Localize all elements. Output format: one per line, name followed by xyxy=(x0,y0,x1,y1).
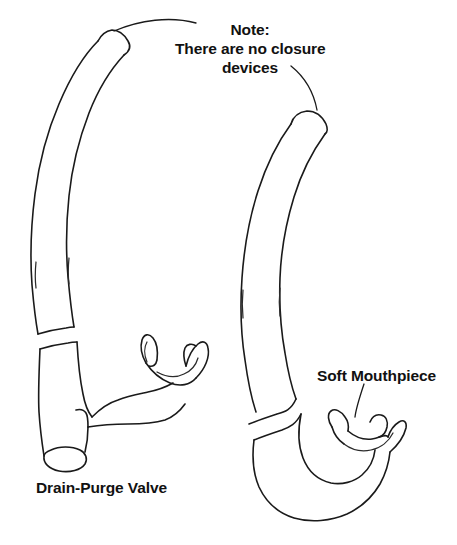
left-barrel-bottom-right-edge xyxy=(85,427,88,452)
left-tube-seam-2 xyxy=(68,258,69,284)
soft-mouthpiece-leader xyxy=(355,384,364,417)
diagram-artwork xyxy=(0,0,457,545)
right-band-bottom xyxy=(254,414,301,440)
right-tube-seam-2 xyxy=(279,288,280,316)
snorkel-diagram: Note: There are no closure devices Drain… xyxy=(0,0,457,545)
left-shoulder-step xyxy=(76,410,88,427)
right-mouthpiece-left-base xyxy=(332,427,344,444)
note-callout-text: Note: There are no closure devices xyxy=(175,20,325,77)
left-band-top xyxy=(38,327,74,334)
right-tube-tip xyxy=(291,111,327,134)
drain-purge-valve-opening xyxy=(44,447,86,472)
left-mouthpiece-inner-rim xyxy=(157,358,198,376)
left-barrel-outer-edge xyxy=(39,349,44,456)
soft-mouthpiece-label: Soft Mouthpiece xyxy=(317,366,436,385)
snorkel-left xyxy=(31,30,208,472)
right-bite-tab xyxy=(370,415,387,437)
left-bite-tab-left-inner xyxy=(145,342,147,362)
right-bend-inner xyxy=(299,414,375,484)
left-tube-outer-edge xyxy=(31,41,98,334)
right-tube-inner-edge xyxy=(280,134,325,399)
snorkel-right xyxy=(241,111,406,521)
left-bite-tab-left xyxy=(141,335,157,366)
left-neck-upper xyxy=(92,383,173,417)
left-band-bottom xyxy=(40,342,77,349)
right-tube-seam xyxy=(242,290,243,318)
drain-purge-valve-label: Drain-Purge Valve xyxy=(36,478,167,497)
left-barrel-inner-edge xyxy=(77,342,92,417)
left-tube-tip xyxy=(98,30,130,55)
right-tube-outer-edge xyxy=(241,124,291,412)
left-tube-seam xyxy=(35,262,36,288)
left-tube-inner-edge xyxy=(67,55,124,327)
